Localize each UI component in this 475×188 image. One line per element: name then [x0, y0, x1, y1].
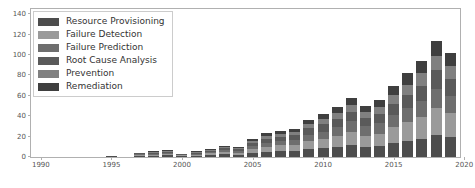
bar-stack [445, 53, 456, 157]
bar-segment [247, 153, 258, 157]
legend-item-label: Remediation [66, 82, 123, 91]
bar-segment [388, 95, 399, 104]
bar-segment [402, 95, 413, 108]
stacked-bar-chart-figure: 020406080100120140 199019952000200520102… [0, 0, 475, 188]
x-axis-tick-label: 2020 [455, 162, 473, 169]
bar-segment [402, 141, 413, 157]
bar-segment [416, 139, 427, 157]
legend-item[interactable]: Prevention [38, 67, 165, 80]
bar-segment [360, 118, 371, 126]
bar-segment [318, 139, 329, 148]
bar-stack [176, 154, 187, 157]
bar-segment [374, 114, 385, 123]
bar-segment [445, 137, 456, 157]
bar-segment [416, 117, 427, 138]
bar-stack [360, 106, 371, 157]
bar-segment [416, 73, 427, 85]
x-axis-tick-label: 2000 [173, 162, 191, 169]
bar-stack [205, 149, 216, 157]
bar-stack [162, 150, 173, 157]
bar-segment [346, 145, 357, 157]
bar-segment [416, 61, 427, 73]
bar-stack [431, 41, 442, 157]
bar-stack [233, 147, 244, 157]
y-axis-tick-label: 80 [17, 72, 26, 79]
bar-stack [148, 151, 159, 157]
y-axis-tick-label: 120 [13, 31, 26, 38]
bar-stack [388, 86, 399, 157]
bar-segment [374, 134, 385, 146]
bar-segment [402, 85, 413, 95]
bar-segment [388, 86, 399, 95]
bar-segment [431, 108, 442, 135]
legend-swatch-icon [38, 31, 59, 39]
bar-segment [431, 70, 442, 88]
bar-segment [445, 53, 456, 66]
bar-segment [388, 127, 399, 142]
bar-segment [360, 126, 371, 135]
bar-segment [445, 66, 456, 79]
bar-stack [247, 139, 258, 157]
legend-swatch-icon [38, 18, 59, 26]
bar-segment [346, 105, 357, 112]
bar-stack [416, 61, 427, 157]
legend-swatch-icon [38, 44, 59, 52]
chart-legend: Resource ProvisioningFailure DetectionFa… [33, 11, 173, 97]
bar-segment [106, 156, 117, 157]
bar-segment [388, 104, 399, 115]
bar-stack [318, 114, 329, 157]
bar-stack [289, 128, 300, 157]
bar-segment [416, 101, 427, 117]
legend-item[interactable]: Root Cause Analysis [38, 54, 165, 67]
legend-item[interactable]: Remediation [38, 80, 165, 93]
bar-stack [303, 120, 314, 157]
bar-stack [346, 98, 357, 157]
bar-segment [374, 123, 385, 133]
bar-stack [275, 130, 286, 157]
bar-segment [360, 136, 371, 147]
bar-segment [191, 156, 202, 157]
bar-segment [445, 96, 456, 113]
bar-segment [374, 107, 385, 114]
x-axis-tick-label: 1990 [32, 162, 50, 169]
x-axis-tick-label: 2005 [244, 162, 262, 169]
x-axis-tick-mark [41, 157, 42, 160]
x-axis-tick-label: 2010 [314, 162, 332, 169]
x-axis-tick-label: 2015 [385, 162, 403, 169]
legend-swatch-icon [38, 83, 59, 91]
bar-segment [303, 149, 314, 157]
bar-stack [134, 153, 145, 157]
legend-item[interactable]: Resource Provisioning [38, 15, 165, 28]
bar-segment [332, 136, 343, 147]
legend-item[interactable]: Failure Detection [38, 28, 165, 41]
bar-segment [416, 86, 427, 101]
bar-segment [445, 79, 456, 95]
bar-stack [191, 151, 202, 157]
legend-item-label: Root Cause Analysis [66, 56, 157, 65]
bar-segment [402, 108, 413, 122]
bar-stack [374, 100, 385, 157]
bar-stack [402, 73, 413, 157]
y-axis-tick-label: 100 [13, 51, 26, 58]
bar-segment [332, 147, 343, 157]
x-axis-tick-mark [394, 157, 395, 160]
bar-segment [134, 156, 145, 157]
legend-item[interactable]: Failure Prediction [38, 41, 165, 54]
x-axis-tick-mark [111, 157, 112, 160]
bar-segment [431, 41, 442, 56]
y-axis-tick-label: 0 [22, 154, 26, 161]
bar-segment [233, 155, 244, 157]
legend-swatch-icon [38, 70, 59, 78]
bar-segment [176, 156, 187, 157]
bar-segment [332, 119, 343, 127]
x-axis-tick-mark [253, 157, 254, 160]
x-axis-tick-mark [182, 157, 183, 160]
bar-segment [388, 143, 399, 157]
legend-item-label: Resource Provisioning [66, 17, 165, 26]
legend-item-label: Failure Detection [66, 30, 142, 39]
bar-segment [346, 112, 357, 121]
legend-item-label: Failure Prediction [66, 43, 143, 52]
bar-segment [445, 113, 456, 136]
bar-segment [388, 115, 399, 127]
bar-segment [289, 151, 300, 157]
